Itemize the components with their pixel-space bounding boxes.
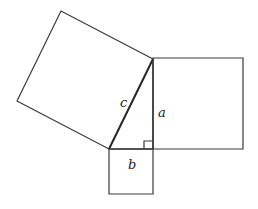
hypotenuse-c (109, 59, 153, 149)
label-a: a (158, 105, 166, 120)
pythagorean-diagram: c a b (0, 0, 258, 209)
right-angle-marker (144, 141, 153, 149)
label-c: c (120, 95, 128, 110)
square-on-hypotenuse (17, 11, 153, 149)
label-b: b (128, 157, 136, 172)
square-on-leg-a (153, 58, 243, 149)
